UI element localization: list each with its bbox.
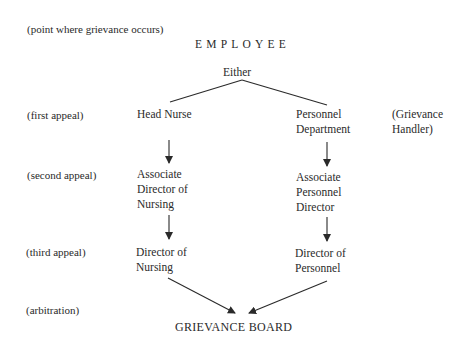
either-to-personnel-line [242,80,327,105]
connector-lines [0,0,476,354]
either-to-head-nurse-line [170,80,242,102]
arrow-diagonal-icon [168,278,235,313]
arrow-diagonal-icon [249,281,327,313]
